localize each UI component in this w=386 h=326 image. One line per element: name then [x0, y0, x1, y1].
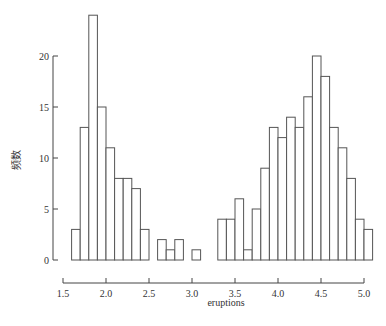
histogram-bar [192, 250, 201, 260]
histogram-bar [72, 229, 81, 260]
histogram-bar [261, 168, 270, 260]
histogram-bar [166, 250, 175, 260]
histogram-bar [295, 127, 304, 260]
histogram-bar [97, 107, 106, 260]
histogram-bar [338, 148, 347, 260]
histogram-bar [287, 117, 296, 260]
histogram-bar [355, 219, 364, 260]
histogram-bar [244, 250, 253, 260]
histogram-bar [269, 127, 278, 260]
histogram-bar [252, 209, 261, 260]
x-tick-label: 5.0 [358, 288, 371, 299]
histogram-bar [347, 178, 356, 260]
histogram-bar [123, 178, 132, 260]
histogram-bar [115, 178, 124, 260]
y-tick-label: 15 [39, 102, 49, 113]
histogram-bar [321, 76, 330, 260]
y-tick-label: 10 [39, 153, 49, 164]
x-tick-label: 2.0 [100, 288, 113, 299]
histogram-bar [89, 15, 98, 260]
x-tick-label: 1.5 [57, 288, 70, 299]
histogram-bar [364, 229, 373, 260]
histogram-bar [106, 148, 115, 260]
histogram-bar [218, 219, 227, 260]
y-tick-label: 0 [44, 255, 49, 266]
x-tick-label: 2.5 [143, 288, 156, 299]
x-tick-label: 4.5 [315, 288, 328, 299]
y-tick-label: 5 [44, 204, 49, 215]
x-axis-title: eruptions [207, 297, 244, 308]
histogram-bar [278, 138, 287, 260]
y-axis-title: 频数 [10, 150, 22, 170]
histogram-bar [175, 240, 184, 260]
histogram-bar [140, 229, 149, 260]
histogram-bar [312, 56, 321, 260]
x-axis: 1.52.02.53.03.54.04.55.0 [57, 278, 371, 299]
x-tick-label: 4.0 [272, 288, 285, 299]
y-tick-label: 20 [39, 51, 49, 62]
histogram-bar [226, 219, 235, 260]
y-axis: 05101520 [39, 51, 58, 266]
histogram-bar [330, 127, 339, 260]
histogram-bar [132, 189, 141, 260]
histogram-bars [72, 15, 373, 260]
histogram-bar [80, 127, 89, 260]
histogram-bar [235, 199, 244, 260]
x-tick-label: 3.0 [186, 288, 199, 299]
histogram-bar [158, 240, 167, 260]
histogram-bar [304, 97, 313, 260]
histogram-chart: 05101520 1.52.02.53.03.54.04.55.0 erupti… [0, 0, 386, 326]
